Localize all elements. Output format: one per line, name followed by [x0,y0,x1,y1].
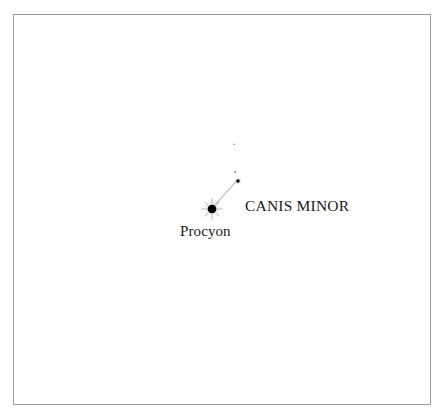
star-field-canvas [0,0,444,416]
gomeisa-core [236,179,240,183]
star-eta-cmi [234,171,236,173]
star-procyon [201,198,223,220]
faint-upper-core [233,143,235,145]
star-chart-figure: CANIS MINOR Procyon [0,0,444,416]
star-gomeisa [235,178,241,184]
constellation-name-label: CANIS MINOR [245,198,349,214]
procyon-star-label: Procyon [180,224,231,239]
star-faint-upper [233,143,235,145]
eta-cmi-core [234,171,236,173]
procyon-core [208,205,217,214]
